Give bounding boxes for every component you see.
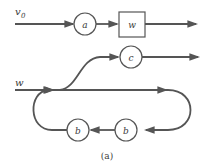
node-c: c (120, 46, 142, 68)
w-input-label: w (15, 77, 24, 88)
svg-text:w: w (128, 20, 136, 30)
edge-loop-to-c (60, 57, 118, 90)
v0-input-label: v 0 (15, 6, 26, 20)
svg-text:b: b (75, 126, 81, 136)
svg-text:0: 0 (21, 12, 26, 20)
node-b-left: b (67, 119, 89, 141)
node-a: a (74, 13, 96, 35)
svg-text:a: a (82, 20, 87, 30)
feedback-diagram: v 0 a w c w b b (a) (0, 0, 214, 168)
node-W-box: w (119, 12, 145, 37)
node-b-right: b (115, 119, 137, 141)
svg-text:c: c (128, 53, 133, 63)
loop-right-curve (146, 90, 191, 130)
svg-text:b: b (123, 126, 129, 136)
figure-caption: (a) (101, 151, 113, 161)
loop-left-curve (33, 90, 67, 130)
